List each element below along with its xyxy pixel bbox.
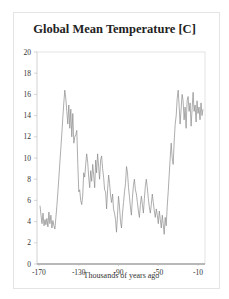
plot-area	[37, 52, 205, 264]
x-axis-label: Thousands of years ago	[0, 271, 229, 280]
y-tick-label: 8	[27, 175, 31, 184]
y-tick-label: 12	[24, 132, 32, 141]
y-tick-label: 10	[24, 154, 32, 163]
y-axis: 02468101214161820	[24, 48, 38, 269]
y-tick-label: 2	[27, 238, 31, 247]
line-chart: 02468101214161820 -170-130-90-50-10	[0, 0, 229, 299]
y-tick-label: 0	[27, 260, 31, 269]
temperature-line	[40, 90, 203, 234]
y-tick-label: 18	[24, 69, 32, 78]
y-tick-label: 20	[24, 48, 32, 57]
y-tick-label: 16	[24, 90, 32, 99]
y-tick-label: 6	[27, 196, 31, 205]
y-tick-label: 14	[24, 111, 32, 120]
y-tick-label: 4	[27, 217, 31, 226]
